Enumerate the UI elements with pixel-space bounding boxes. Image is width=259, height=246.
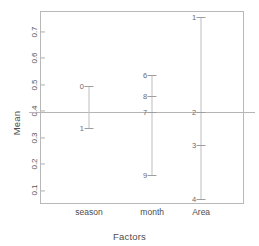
level-tick-mark — [148, 175, 157, 176]
level-label: 2 — [192, 109, 196, 117]
y-axis-tick-mark — [41, 84, 45, 85]
y-axis-tick-label: 0.4 — [31, 106, 39, 117]
level-label: 4 — [192, 196, 196, 204]
y-axis-tick-label: 0.6 — [31, 53, 39, 64]
level-label: 3 — [192, 142, 196, 150]
x-axis-label-month: month — [140, 207, 164, 217]
level-tick-mark — [197, 145, 206, 146]
y-axis-tick: 0.2 — [31, 158, 39, 169]
level-point: 3 — [171, 140, 231, 151]
level-tick-mark — [148, 96, 157, 97]
y-axis-tick-label: 0.1 — [31, 185, 39, 196]
level-tick-mark — [148, 75, 157, 76]
level-tick-mark — [197, 17, 206, 18]
y-axis-tick: 0.6 — [31, 53, 39, 64]
y-axis-tick: 0.5 — [31, 79, 39, 90]
y-axis-tick-mark — [41, 137, 45, 138]
level-tick-mark — [148, 112, 157, 113]
level-label: 1 — [192, 14, 196, 22]
level-point: 2 — [171, 107, 231, 118]
level-label: 1 — [80, 125, 84, 133]
y-axis-tick-label: 0.2 — [31, 158, 39, 169]
level-tick-mark — [84, 128, 93, 129]
y-axis-tick: 0.3 — [31, 132, 39, 143]
y-axis-tick-label: 0.3 — [31, 132, 39, 143]
level-tick-mark — [197, 199, 206, 200]
y-axis-tick-mark — [41, 164, 45, 165]
y-axis-tick-mark — [41, 190, 45, 191]
level-label: 8 — [143, 93, 147, 101]
main-effects-plot: Mean 0.10.20.30.40.50.60.7 01season6879m… — [0, 0, 259, 246]
y-axis-tick-label: 0.7 — [31, 26, 39, 37]
y-axis-tick: 0.4 — [31, 106, 39, 117]
factor-group-Area: 1234Area — [166, 12, 236, 203]
level-label: 6 — [143, 72, 147, 80]
y-axis-tick-label: 0.5 — [31, 79, 39, 90]
factor-group-season: 01season — [54, 12, 124, 203]
level-label: 0 — [80, 82, 84, 90]
plot-frame: 0.10.20.30.40.50.60.7 01season6879month1… — [40, 11, 244, 204]
level-point: 4 — [171, 194, 231, 205]
y-axis-tick-mark — [41, 58, 45, 59]
level-point: 1 — [59, 123, 119, 134]
x-axis-label-Area: Area — [192, 207, 210, 217]
y-axis-title: Mean — [11, 93, 22, 153]
level-label: 7 — [143, 109, 147, 117]
x-axis-label-season: season — [75, 207, 102, 217]
level-tick-mark — [84, 86, 93, 87]
level-point: 0 — [59, 81, 119, 92]
level-label: 9 — [143, 172, 147, 180]
y-axis-tick: 0.7 — [31, 26, 39, 37]
x-axis-title: Factors — [0, 231, 259, 242]
level-tick-mark — [197, 112, 206, 113]
y-axis-tick: 0.1 — [31, 185, 39, 196]
level-point: 1 — [171, 12, 231, 23]
y-axis-tick-mark — [41, 31, 45, 32]
